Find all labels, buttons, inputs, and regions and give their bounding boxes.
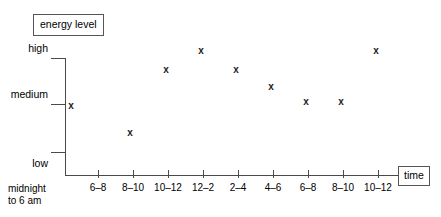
x-tick-3	[203, 170, 204, 178]
y-tick-low	[51, 152, 65, 153]
x-tick-6	[308, 170, 309, 178]
y-axis-title: energy level	[33, 14, 104, 36]
x-tick-5	[273, 170, 274, 178]
x-tick-1	[133, 170, 134, 178]
data-point-marker: x	[300, 97, 312, 107]
origin-caption-line-2: to 6 am	[8, 195, 80, 207]
x-tick-8	[378, 170, 379, 178]
x-tick-2	[168, 170, 169, 178]
y-axis-line	[65, 58, 66, 176]
y-tick-high	[51, 58, 65, 59]
data-point-marker: x	[370, 46, 382, 56]
x-axis-title: time	[398, 166, 430, 186]
origin-caption-line-1: midnight	[8, 183, 80, 195]
x-tick-4	[238, 170, 239, 178]
data-point-marker: x	[65, 101, 77, 111]
energy-level-time-chart: energy level high medium low 6–8 8–10 10…	[0, 0, 441, 217]
x-axis-line	[65, 175, 398, 176]
data-point-marker: x	[160, 65, 172, 75]
data-point-marker: x	[124, 128, 136, 138]
y-tick-label-low: low	[0, 158, 48, 169]
origin-caption: midnight to 6 am	[8, 183, 80, 207]
x-tick-0	[98, 170, 99, 178]
y-tick-label-high: high	[0, 43, 48, 54]
data-point-marker: x	[230, 65, 242, 75]
y-tick-medium	[51, 104, 65, 105]
y-tick-label-medium: medium	[0, 89, 48, 100]
x-tick-7	[343, 170, 344, 178]
data-point-marker: x	[335, 97, 347, 107]
data-point-marker: x	[195, 46, 207, 56]
x-tick-label-8: 10–12	[355, 183, 401, 193]
data-point-marker: x	[265, 82, 277, 92]
